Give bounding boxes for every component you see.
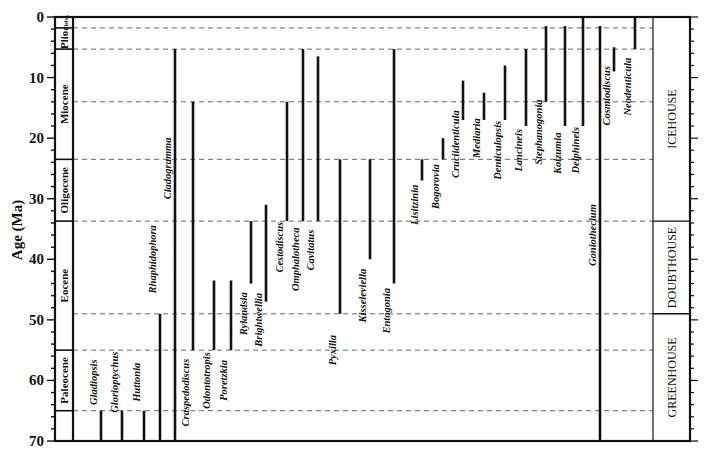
epoch-label: Eocene <box>58 269 70 303</box>
taxon-label: Poretzkia <box>218 360 229 401</box>
taxon-range-omphalotheca: Omphalotheca <box>290 49 303 291</box>
taxon-label: Lisitzinia <box>409 185 420 226</box>
taxon-label: Koizumia <box>552 133 563 175</box>
taxon-label: Brightwellia <box>253 293 264 348</box>
climate-zone-label: ICEHOUSE <box>665 89 679 148</box>
taxon-label: Denticulopsis <box>492 121 503 181</box>
y-axis-label: Age (Ma) <box>9 200 26 260</box>
taxon-range-brightwellia: Brightwellia <box>253 205 266 348</box>
taxon-range-stephanogonia: Stephanogonia <box>533 26 546 165</box>
taxon-label: Cosmiodiscus <box>601 66 612 126</box>
taxon-label: Delphineis <box>570 127 581 175</box>
y-tick-label: 40 <box>29 251 44 267</box>
taxon-range-rylandsia: Rylandsia <box>238 221 251 336</box>
taxon-range-cestodiscus: Cestodiscus <box>274 102 287 273</box>
taxon-range-cosmiodiscus: Cosmiodiscus <box>601 47 614 125</box>
climate-zone-label: GREENHOUSE <box>665 337 679 417</box>
taxon-label: Rhaphidophora <box>147 225 158 294</box>
taxon-range-rhaphidophora: Rhaphidophora <box>147 225 160 441</box>
diatom-range-chart: 010203040506070 Pleist.Plio.MioceneOligo… <box>0 0 707 456</box>
taxon-range-glorioptychus: Glorioptychus <box>109 352 122 441</box>
taxon-label: Cladogramma <box>162 138 173 200</box>
taxon-label: Huttonia <box>131 363 142 403</box>
epoch-label: Paleocene <box>58 357 70 404</box>
epoch-label: Oligocene <box>58 167 70 214</box>
taxon-label: Cruciidenticula <box>450 110 461 178</box>
taxon-range-gladiopsis: Gladiopsis <box>88 359 101 441</box>
taxon-label: Craspedodiscus <box>180 359 191 427</box>
taxon-label: Rylandsia <box>238 292 249 336</box>
y-tick-label: 70 <box>29 433 44 449</box>
taxon-range-poretzkia: Poretzkia <box>218 280 231 400</box>
taxon-range-lisitzinia: Lisitzinia <box>409 159 422 226</box>
taxon-label: Entogonia <box>381 288 392 335</box>
taxon-range-lancineis: Lancineis <box>513 49 526 172</box>
epoch-label: Plio. <box>58 28 70 49</box>
taxon-range-cavitatus: Cavitatus <box>305 56 318 270</box>
taxon-range-craspedodiscus: Craspedodiscus <box>180 102 193 427</box>
taxon-label: Goniothecium <box>587 204 598 266</box>
taxon-label: Neodenticula <box>622 58 633 117</box>
taxon-range-delphineis: Delphineis <box>570 17 583 175</box>
y-tick-label: 30 <box>29 191 44 207</box>
taxon-range-entogonia: Entogonia <box>381 49 394 334</box>
taxon-label: Odontotropis <box>201 352 212 409</box>
taxon-ranges: GladiopsisGlorioptychusHuttoniaRhaphidop… <box>88 17 635 441</box>
climate-column: ICEHOUSEDOUBTHOUSEGREENHOUSE <box>653 89 690 441</box>
epoch-label: Miocene <box>58 84 70 124</box>
taxon-label: Cavitatus <box>305 230 316 271</box>
taxon-range-odontotropis: Odontotropis <box>201 280 214 408</box>
y-tick-label: 20 <box>29 130 44 146</box>
taxon-label: Lancineis <box>513 129 524 173</box>
taxon-label: Mediaria <box>471 118 482 159</box>
taxon-label: Omphalotheca <box>290 227 301 291</box>
taxon-label: Cestodiscus <box>274 222 285 273</box>
taxon-range-huttonia: Huttonia <box>131 363 144 441</box>
taxon-label: Pyxilla <box>327 335 338 365</box>
taxon-range-cruciidenticula: Cruciidenticula <box>450 81 463 178</box>
taxon-label: Stephanogonia <box>533 99 544 164</box>
climate-zone-label: DOUBTHOUSE <box>665 227 679 308</box>
taxon-range-koizumia: Koizumia <box>552 26 565 175</box>
taxon-range-cladogramma: Cladogramma <box>162 49 175 441</box>
taxon-range-pyxilla: Pyxilla <box>327 159 340 365</box>
taxon-label: Bogorovia <box>430 164 441 210</box>
y-tick-label: 0 <box>37 9 45 25</box>
taxon-label: Kisseleviella <box>357 269 368 324</box>
taxon-label: Gladiopsis <box>88 359 99 405</box>
taxon-label: Glorioptychus <box>109 352 120 413</box>
taxon-range-kisseleviella: Kisseleviella <box>357 159 370 323</box>
taxon-range-mediaria: Mediaria <box>471 93 484 159</box>
y-tick-label: 60 <box>29 372 44 388</box>
taxon-range-denticulopsis: Denticulopsis <box>492 65 505 180</box>
taxon-range-bogorovia: Bogorovia <box>430 138 443 210</box>
taxon-range-goniothecium: Goniothecium <box>587 26 600 441</box>
y-tick-label: 10 <box>29 70 44 86</box>
epoch-column: Pleist.Plio.MioceneOligoceneEocenePaleoc… <box>55 14 73 411</box>
y-tick-label: 50 <box>29 312 44 328</box>
